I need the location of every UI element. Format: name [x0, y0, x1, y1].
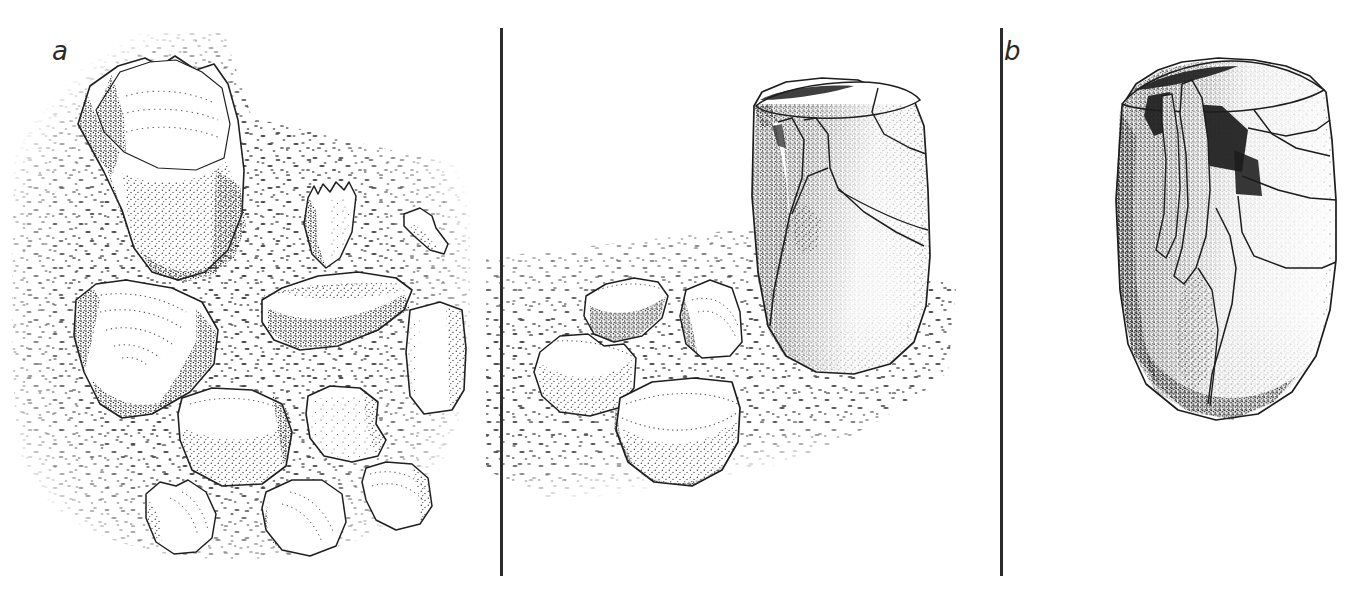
panel-label-a: a: [52, 38, 68, 64]
fragment-b-triangular: [680, 280, 742, 358]
fragment-mid-lower-center: [178, 388, 292, 486]
figure-plate: a: [0, 0, 1366, 594]
panel-divider-b-c: [1000, 28, 1003, 576]
reconstructed-vessel-b: [752, 78, 930, 374]
panel-divider-a-b: [500, 28, 503, 576]
reconstructed-artefact-c: [1116, 58, 1336, 420]
panel-b: b: [486, 0, 986, 594]
panel-c-illustration: [986, 0, 1366, 594]
fragment-tall-right: [406, 302, 466, 414]
panel-b-illustration: [486, 0, 986, 594]
panel-a-illustration: [0, 0, 486, 594]
panel-a: a: [0, 0, 486, 594]
fragment-bottom-left: [146, 480, 216, 554]
panel-c: c: [986, 0, 1366, 594]
